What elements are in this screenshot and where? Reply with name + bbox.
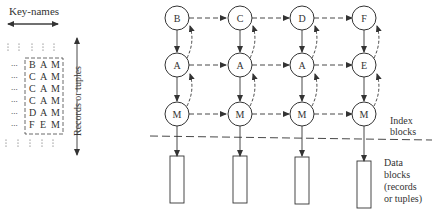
svg-text:C: C: [29, 71, 36, 82]
index-column-3: [302, 26, 317, 156]
svg-text:A: A: [298, 60, 306, 71]
dotted-columns-top: [7, 43, 54, 50]
node-labels: B A M C A M D A M F E M: [173, 13, 369, 120]
data-block-3: [295, 157, 309, 204]
records-label: Records or tuples: [72, 66, 83, 136]
svg-text:D: D: [298, 13, 305, 24]
svg-text:A: A: [40, 71, 48, 82]
index-column-4: [364, 26, 379, 161]
svg-text:M: M: [51, 95, 60, 106]
data-block-4: [357, 161, 371, 208]
svg-text:...: ...: [11, 70, 18, 80]
data-blocks-label-1: Data: [384, 157, 403, 168]
svg-text:E: E: [361, 60, 367, 71]
index-blocks-label-2: blocks: [390, 126, 416, 137]
data-blocks-label-3: (records: [384, 181, 417, 193]
index-column-2: [240, 26, 255, 156]
left-panel: Key-names ... ... ... ... ... .: [5, 5, 83, 155]
record-row: BAM: [29, 59, 60, 70]
svg-text:E: E: [40, 119, 46, 130]
svg-text:B: B: [29, 59, 36, 70]
svg-text:M: M: [298, 109, 307, 120]
svg-text:...: ...: [11, 106, 18, 116]
record-row: DAM: [29, 107, 60, 118]
key-names-label: Key-names: [9, 5, 59, 17]
svg-text:...: ...: [11, 94, 18, 104]
svg-text:F: F: [361, 13, 367, 24]
svg-text:A: A: [40, 95, 48, 106]
svg-text:C: C: [237, 13, 244, 24]
svg-text:...: ...: [11, 82, 18, 92]
data-blocks-label-2: blocks: [384, 169, 410, 180]
index-blocks-label-1: Index: [390, 115, 413, 126]
svg-text:D: D: [29, 107, 36, 118]
record-row: CAM: [29, 71, 60, 82]
svg-text:F: F: [29, 119, 35, 130]
index-nodes: [165, 6, 376, 126]
svg-text:M: M: [51, 83, 60, 94]
svg-text:M: M: [51, 71, 60, 82]
svg-text:...: ...: [11, 58, 18, 68]
record-row: FEM: [29, 119, 60, 130]
record-row: CAM: [29, 95, 60, 106]
svg-text:A: A: [173, 60, 181, 71]
svg-text:M: M: [360, 109, 369, 120]
record-row: CAM: [29, 83, 60, 94]
svg-text:A: A: [40, 59, 48, 70]
row-ellipses: ... ... ... ... ... ...: [11, 58, 18, 128]
data-blocks-label-4: or tuples): [384, 193, 422, 205]
data-block-2: [233, 156, 247, 203]
svg-text:M: M: [51, 59, 60, 70]
dotted-columns-bottom: [5, 139, 53, 146]
data-block-1: [170, 156, 184, 203]
index-structure-diagram: Key-names ... ... ... ... ... .: [0, 0, 434, 216]
records-table: BAM CAM CAM CAM DAM FEM: [29, 59, 60, 130]
svg-text:M: M: [173, 109, 182, 120]
right-labels: Index blocks Data blocks (records or tup…: [384, 115, 422, 205]
svg-text:B: B: [174, 13, 181, 24]
svg-text:C: C: [29, 83, 36, 94]
svg-text:M: M: [236, 109, 245, 120]
svg-text:M: M: [51, 107, 60, 118]
svg-text:M: M: [51, 119, 60, 130]
svg-text:...: ...: [11, 118, 18, 128]
svg-text:A: A: [40, 107, 48, 118]
svg-text:C: C: [29, 95, 36, 106]
svg-text:A: A: [40, 83, 48, 94]
svg-text:A: A: [236, 60, 244, 71]
